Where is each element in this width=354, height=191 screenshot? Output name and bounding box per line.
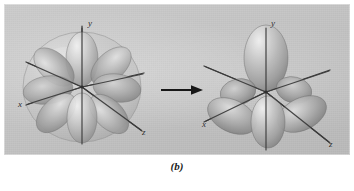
origin-point (80, 85, 83, 88)
illustration-panel: y x z (4, 4, 350, 155)
right-orbital-diagram: y x z (180, 4, 350, 155)
right-axis-label-x: x (202, 120, 206, 129)
right-axis-label-z: z (329, 140, 333, 149)
left-axis-label-y: y (88, 19, 92, 28)
figure-caption: (b) (0, 160, 354, 172)
left-axis-label-x: x (18, 100, 22, 109)
figure-container: y x z (0, 0, 354, 191)
left-orbital-diagram: y x z (4, 4, 174, 155)
right-axis-label-y: y (271, 19, 275, 28)
right-orbital-svg (180, 4, 350, 155)
origin-point (264, 90, 267, 93)
left-axis-label-z: z (142, 128, 146, 137)
